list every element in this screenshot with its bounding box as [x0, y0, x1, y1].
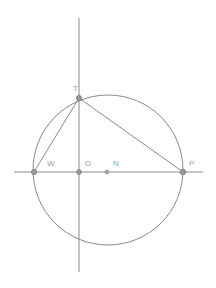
geometry-canvas: W O N P T	[0, 0, 216, 288]
point-t-dot	[76, 95, 81, 100]
point-o-dot	[77, 170, 82, 175]
point-label-p: P	[189, 159, 195, 168]
point-n-dot	[105, 170, 109, 174]
point-label-n: N	[113, 159, 119, 168]
point-w-dot	[31, 169, 36, 174]
geometry-diagram: W O N P T	[0, 0, 216, 288]
point-label-w: W	[47, 159, 55, 168]
point-label-o: O	[85, 159, 91, 168]
point-p-dot	[180, 169, 186, 175]
point-label-t: T	[73, 84, 78, 93]
